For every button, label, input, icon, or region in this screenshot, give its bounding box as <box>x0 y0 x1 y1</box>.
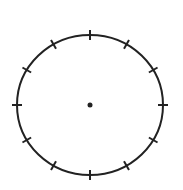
circle-diagram <box>0 0 183 190</box>
center-point <box>88 103 93 108</box>
